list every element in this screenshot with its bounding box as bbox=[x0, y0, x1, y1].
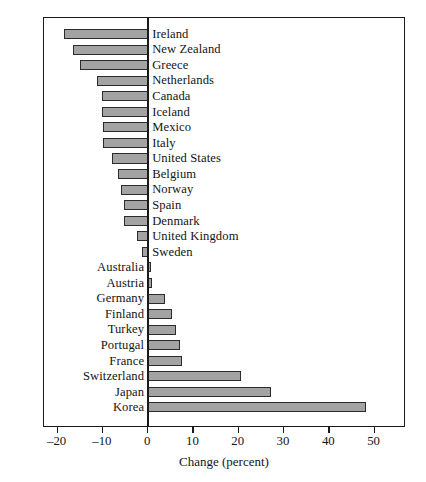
bar bbox=[148, 356, 182, 366]
bar-category-label: Spain bbox=[152, 198, 181, 213]
bar bbox=[148, 387, 271, 397]
bar-category-label: Ireland bbox=[152, 27, 188, 42]
bar-row: Netherlands bbox=[44, 74, 404, 90]
bar-row: United States bbox=[44, 151, 404, 167]
bar bbox=[103, 138, 148, 148]
x-axis-tick-label: –20 bbox=[47, 434, 66, 449]
bar bbox=[148, 309, 172, 319]
x-axis-tick-mark bbox=[57, 427, 58, 433]
x-axis-title: Change (percent) bbox=[43, 454, 405, 470]
bar bbox=[102, 91, 148, 101]
bar-row: Japan bbox=[44, 385, 404, 401]
bar-row: Iceland bbox=[44, 105, 404, 121]
bar-row: Italy bbox=[44, 136, 404, 152]
bar-category-label: New Zealand bbox=[152, 42, 221, 57]
x-axis-tick-label: –10 bbox=[92, 434, 111, 449]
bar bbox=[121, 185, 148, 195]
x-axis-tick-label: 0 bbox=[144, 434, 150, 449]
x-axis-tick-label: 40 bbox=[322, 434, 335, 449]
bar-category-label: Mexico bbox=[152, 120, 191, 135]
x-axis-tick-mark bbox=[102, 427, 103, 433]
x-axis-tick-mark bbox=[238, 427, 239, 433]
bar bbox=[80, 60, 148, 70]
bar-row: Norway bbox=[44, 183, 404, 199]
bar-category-label: Switzerland bbox=[83, 369, 144, 384]
bar-row: Austria bbox=[44, 276, 404, 292]
figure-chart-change-percent: IrelandNew ZealandGreeceNetherlandsCanad… bbox=[0, 0, 426, 482]
bar bbox=[103, 122, 148, 132]
x-axis-tick-label: 50 bbox=[367, 434, 380, 449]
x-axis-tick-mark bbox=[283, 427, 284, 433]
bar-category-label: Japan bbox=[115, 385, 144, 400]
bar-row: Turkey bbox=[44, 323, 404, 339]
bar-category-label: Norway bbox=[152, 182, 193, 197]
x-axis-tick-mark bbox=[192, 427, 193, 433]
bar-category-label: Austria bbox=[106, 276, 144, 291]
zero-axis-line bbox=[147, 18, 149, 426]
bar bbox=[148, 371, 241, 381]
bar-row: Sweden bbox=[44, 245, 404, 261]
x-axis-tick-mark bbox=[147, 427, 148, 433]
bars-layer: IrelandNew ZealandGreeceNetherlandsCanad… bbox=[44, 18, 404, 426]
bar bbox=[148, 325, 176, 335]
bar-category-label: Australia bbox=[97, 260, 144, 275]
x-axis-tick-label: 10 bbox=[186, 434, 199, 449]
bar bbox=[97, 76, 148, 86]
bar-category-label: Denmark bbox=[152, 214, 200, 229]
bar-row: France bbox=[44, 354, 404, 370]
bar-category-label: Italy bbox=[152, 136, 176, 151]
plot-frame: IrelandNew ZealandGreeceNetherlandsCanad… bbox=[43, 17, 405, 427]
bar-category-label: Germany bbox=[97, 291, 145, 306]
bar-category-label: Finland bbox=[105, 307, 144, 322]
x-axis-tick-mark bbox=[328, 427, 329, 433]
bar bbox=[148, 294, 165, 304]
bar-row: Australia bbox=[44, 260, 404, 276]
bar-row: Canada bbox=[44, 89, 404, 105]
bar-row: Germany bbox=[44, 292, 404, 308]
bar-row: New Zealand bbox=[44, 43, 404, 59]
bar bbox=[148, 402, 366, 412]
bar bbox=[73, 45, 148, 55]
bar-category-label: Iceland bbox=[152, 105, 190, 120]
bar-category-label: Portugal bbox=[101, 338, 144, 353]
bar-row: Korea bbox=[44, 400, 404, 416]
bar bbox=[118, 169, 148, 179]
bar-category-label: Turkey bbox=[108, 322, 145, 337]
x-axis: –20–1001020304050 Change (percent) bbox=[43, 427, 405, 482]
bar bbox=[102, 107, 148, 117]
bar-row: Ireland bbox=[44, 27, 404, 43]
bar-category-label: Netherlands bbox=[152, 73, 214, 88]
bar-category-label: Sweden bbox=[152, 245, 192, 260]
bar-category-label: United Kingdom bbox=[152, 229, 238, 244]
bar bbox=[112, 153, 148, 163]
bar-row: Greece bbox=[44, 58, 404, 74]
bar-row: Belgium bbox=[44, 167, 404, 183]
x-axis-tick-mark bbox=[374, 427, 375, 433]
bar-category-label: Belgium bbox=[152, 167, 196, 182]
bar bbox=[148, 340, 180, 350]
bar bbox=[64, 29, 148, 39]
x-axis-tick-label: 30 bbox=[277, 434, 290, 449]
bar-category-label: United States bbox=[152, 151, 221, 166]
bar bbox=[124, 216, 148, 226]
bar-category-label: Greece bbox=[152, 58, 188, 73]
bar-row: Switzerland bbox=[44, 369, 404, 385]
bar-category-label: France bbox=[109, 354, 144, 369]
bar-row: Mexico bbox=[44, 120, 404, 136]
bar-row: Spain bbox=[44, 198, 404, 214]
bar-row: Portugal bbox=[44, 338, 404, 354]
bar-category-label: Korea bbox=[113, 400, 144, 415]
bar-row: Finland bbox=[44, 307, 404, 323]
x-axis-tick-label: 20 bbox=[231, 434, 244, 449]
bar bbox=[124, 200, 148, 210]
bar-category-label: Canada bbox=[152, 89, 190, 104]
bar-row: Denmark bbox=[44, 214, 404, 230]
bar-row: United Kingdom bbox=[44, 229, 404, 245]
